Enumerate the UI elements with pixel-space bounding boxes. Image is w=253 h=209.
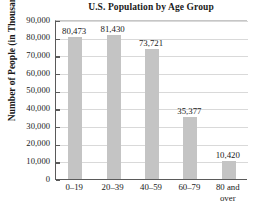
y-axis-tick-label: 70,000 — [6, 50, 50, 60]
chart-title: U.S. Population by Age Group — [55, 2, 247, 12]
y-axis-tick-label: 40,000 — [6, 103, 50, 113]
chart-figure: U.S. Population by Age Group Number of P… — [0, 0, 253, 209]
y-axis-tick-label: 50,000 — [6, 85, 50, 95]
y-axis-tick-label: 10,000 — [6, 156, 50, 166]
bar-value-label: 73,721 — [123, 38, 179, 48]
y-axis-tick-label: 30,000 — [6, 121, 50, 131]
y-axis-tick-mark — [56, 74, 60, 75]
bar-value-label: 10,420 — [200, 150, 253, 160]
bar[interactable] — [183, 117, 197, 179]
y-axis-tick-label: 20,000 — [6, 138, 50, 148]
y-axis-tick-mark — [56, 21, 60, 22]
bar[interactable] — [222, 161, 236, 179]
x-axis-label-line: over — [200, 193, 253, 204]
bar[interactable] — [145, 49, 159, 179]
y-axis-tick-label: 80,000 — [6, 32, 50, 42]
y-axis-tick-mark — [56, 56, 60, 57]
y-axis-tick-label: 0 — [6, 174, 50, 184]
y-axis-tick-mark — [56, 127, 60, 128]
bar[interactable] — [107, 35, 121, 179]
y-axis-tick-mark — [56, 109, 60, 110]
x-axis-label-line: 80 and — [200, 182, 253, 193]
gridline — [56, 21, 248, 22]
bar-value-label: 35,377 — [161, 106, 217, 116]
bar[interactable] — [68, 37, 82, 179]
y-axis-tick-mark — [56, 39, 60, 40]
y-axis-tick-label: 90,000 — [6, 15, 50, 25]
y-axis-tick-mark — [56, 145, 60, 146]
x-axis-line — [55, 179, 247, 180]
y-axis-tick-mark — [56, 162, 60, 163]
y-axis-tick-mark — [56, 92, 60, 93]
y-axis-tick-label: 60,000 — [6, 68, 50, 78]
x-axis-tick-label: 80 andover — [200, 182, 253, 203]
bar-value-label: 81,430 — [85, 24, 141, 34]
